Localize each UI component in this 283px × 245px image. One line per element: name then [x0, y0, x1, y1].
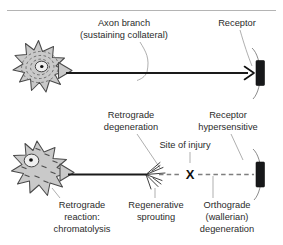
label-retrograde-degeneration-line1: Retrograde — [108, 110, 155, 120]
leader-axon-branch — [140, 42, 148, 72]
label-orthograde-degeneration-line2: (wallerian) — [206, 212, 249, 222]
label-regenerative-sprouting-line1: Regenerative — [128, 200, 183, 210]
label-retrograde-reaction-line2: reaction: — [64, 212, 100, 222]
label-axon-branch-line2: (sustaining collateral) — [80, 30, 168, 40]
label-receptor-hypersensitive-line1: Receptor — [209, 110, 247, 120]
label-site-of-injury: Site of injury — [159, 140, 211, 150]
axon-hillock-normal — [59, 63, 73, 79]
label-axon-branch-line1: Axon branch — [98, 18, 150, 28]
label-retrograde-degeneration-line2: degeneration — [104, 122, 158, 132]
label-orthograde-degeneration-line1: Orthograde — [203, 200, 250, 210]
label-orthograde-degeneration-line3: degeneration — [200, 224, 254, 234]
regenerative-sprouts — [146, 163, 165, 190]
leader-retrograde-reaction — [52, 188, 60, 198]
nucleolus-injured — [29, 158, 33, 161]
leader-retrograde-degeneration — [137, 134, 160, 168]
label-receptor-top: Receptor — [218, 18, 256, 28]
leader-receptor-top — [240, 30, 252, 66]
injury-site-marker: X — [186, 167, 195, 182]
receptor-plate-bottom — [256, 162, 265, 187]
receptor-plate-top — [256, 61, 265, 86]
label-retrograde-reaction-line1: Retrograde — [59, 200, 106, 210]
panel-injured-neuron: Retrograde degeneration Receptor hyperse… — [12, 110, 265, 234]
panel-normal-neuron: Axon branch (sustaining collateral) Rece… — [13, 18, 265, 99]
label-regenerative-sprouting-line2: sprouting — [137, 212, 175, 222]
nucleolus-normal — [40, 65, 43, 68]
leader-receptor-hypersensitive — [231, 134, 243, 160]
neuron-injury-diagram: Axon branch (sustaining collateral) Rece… — [0, 0, 283, 245]
axon-hillock-injured — [60, 164, 74, 181]
label-retrograde-reaction-line3: chromatolysis — [54, 224, 111, 234]
label-receptor-hypersensitive-line2: hypersensitive — [198, 122, 257, 132]
